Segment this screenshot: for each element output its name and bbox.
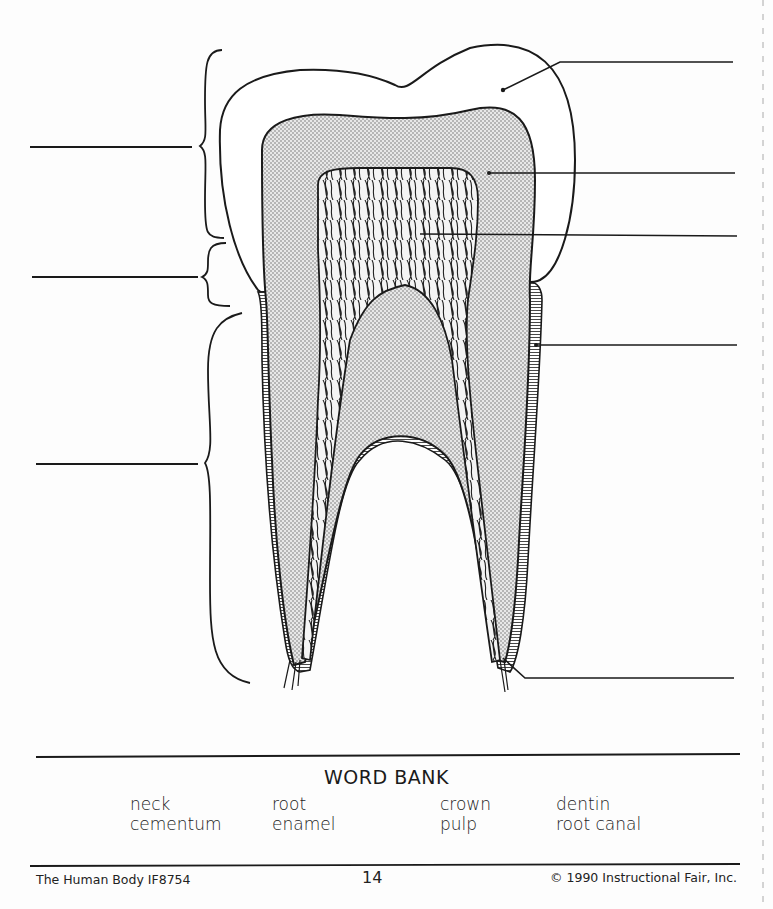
neck-brace	[202, 243, 230, 306]
word-bank-word: dentin	[556, 794, 610, 814]
word-bank-word: crown	[440, 794, 491, 814]
word-bank-word: cementum	[130, 814, 222, 834]
footer-book-title: The Human Body IF8754	[36, 872, 191, 887]
footer-copyright: © 1990 Instructional Fair, Inc.	[550, 870, 737, 885]
word-bank-title: WORD BANK	[0, 766, 773, 788]
word-bank-word: root canal	[556, 814, 641, 834]
word-bank-word: neck	[130, 794, 170, 814]
root-brace	[205, 313, 250, 683]
label-blank-root-canal	[503, 658, 734, 678]
word-bank-word: root	[272, 794, 306, 814]
page-number: 14	[362, 868, 382, 887]
word-bank-word: pulp	[440, 814, 477, 834]
footer-rule	[30, 864, 740, 866]
word-bank-top-rule	[36, 754, 740, 757]
word-bank-word: enamel	[272, 814, 335, 834]
